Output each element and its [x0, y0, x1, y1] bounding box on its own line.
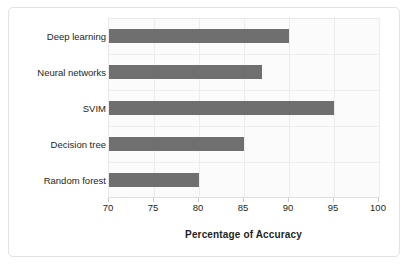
x-axis-tick-label: 85 [223, 202, 263, 213]
bar [109, 173, 199, 187]
bar [109, 29, 289, 43]
x-axis-tick-label: 75 [133, 202, 173, 213]
bar [109, 65, 262, 79]
x-axis-title: Percentage of Accuracy [108, 229, 379, 240]
x-axis-tick-label: 90 [268, 202, 308, 213]
bar [109, 137, 244, 151]
category-axis-labels: Deep learningNeural networksSVIMDecision… [22, 18, 106, 198]
x-axis-tick-label: 80 [178, 202, 218, 213]
category-axis-label: Deep learning [22, 31, 106, 42]
category-axis-label: Neural networks [22, 67, 106, 78]
category-axis-label: SVIM [22, 103, 106, 114]
category-axis-label: Random forest [22, 175, 106, 186]
x-axis-tick-label: 95 [313, 202, 353, 213]
bar [109, 101, 334, 115]
category-axis-label: Decision tree [22, 139, 106, 150]
x-axis-tick-label: 70 [88, 202, 128, 213]
plot-area [108, 18, 380, 198]
x-axis-tick-labels: 707580859095100 [108, 202, 378, 216]
bar-chart-figure: Alalgorithms Deep learningNeural network… [0, 0, 412, 266]
vertical-gridline [334, 18, 335, 198]
x-axis-tick-label: 100 [358, 202, 398, 213]
